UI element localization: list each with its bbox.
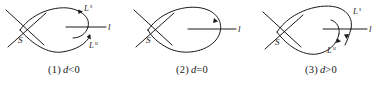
homoclinic-loop <box>148 7 221 52</box>
panel-2-diagram: S l <box>128 0 256 64</box>
stable-manifold-inner-end <box>73 27 88 38</box>
flow-arrow-lower-icon <box>336 38 341 43</box>
flow-arrow-icon <box>213 18 218 23</box>
saddle-separatrix-line-a <box>134 10 172 45</box>
panel-2-relation: =0 <box>196 64 208 75</box>
panel-1-diagram: S L s L u l <box>0 0 128 64</box>
panel-2-index: (2) <box>176 64 189 75</box>
saddle-point-label: S <box>18 35 23 45</box>
panel-1-relation: <0 <box>68 64 80 75</box>
unstable-manifold-label-sup: u <box>333 45 336 51</box>
panel-3-index: (3) <box>305 64 318 75</box>
unstable-manifold-label: L <box>326 45 332 55</box>
line-l-label: l <box>238 24 241 34</box>
panel-2-caption: (2)d=0 <box>128 64 256 75</box>
line-l-label: l <box>369 24 372 34</box>
panel-3-relation: >0 <box>325 64 337 75</box>
panel-d-zero: S l (2)d=0 <box>128 0 256 94</box>
homoclinic-bifurcation-figure: S L s L u l (1)d<0 S l (2)d=0 <box>0 0 385 94</box>
stable-manifold-label: L <box>83 3 89 13</box>
saddle-point-label: S <box>275 37 280 47</box>
panel-3-diagram: S L s L u l <box>257 0 385 64</box>
unstable-manifold-label-sup: u <box>95 40 98 46</box>
stable-manifold-label: L <box>352 6 358 16</box>
saddle-separatrix-line-a <box>6 10 44 45</box>
saddle-point-label: S <box>146 35 151 45</box>
unstable-manifold-label: L <box>88 40 94 50</box>
panel-1-index: (1) <box>48 64 61 75</box>
panel-1-caption: (1)d<0 <box>0 64 128 75</box>
line-l-label: l <box>108 22 111 32</box>
unstable-manifold-inner-end <box>331 20 339 34</box>
unstable-manifold-branch <box>20 30 90 52</box>
panel-d-negative: S L s L u l (1)d<0 <box>0 0 128 94</box>
stable-manifold-label-sup: s <box>90 3 92 9</box>
stable-manifold-label-sup: s <box>359 6 361 12</box>
saddle-separatrix-line-a <box>263 12 301 47</box>
panel-3-caption: (3)d>0 <box>257 64 385 75</box>
panel-d-positive: S L s L u l (3)d>0 <box>257 0 385 94</box>
